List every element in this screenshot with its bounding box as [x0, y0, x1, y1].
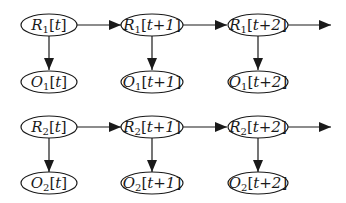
node-r2-t2: R2[t+2] — [228, 116, 288, 138]
node-o2-t: O2[t] — [21, 172, 77, 194]
node-r2-t: R2[t] — [21, 116, 77, 138]
svg-text:O2[t]: O2[t] — [31, 174, 67, 193]
node-r1-t1: R1[t+1] — [121, 14, 183, 36]
svg-text:R1[t+1]: R1[t+1] — [122, 16, 181, 35]
svg-text:R2[t+1]: R2[t+1] — [122, 118, 181, 137]
svg-text:R1[t]: R1[t] — [30, 16, 66, 35]
svg-text:O1[t]: O1[t] — [31, 73, 67, 92]
svg-text:R2[t+2]: R2[t+2] — [228, 118, 287, 137]
node-r1-t2: R1[t+2] — [228, 14, 288, 36]
node-o1-t2: O1[t+2] — [228, 71, 288, 93]
svg-text:O1[t+2]: O1[t+2] — [229, 73, 288, 92]
node-o1-t: O1[t] — [21, 71, 77, 93]
node-r1-t: R1[t] — [21, 14, 77, 36]
node-r2-t1: R2[t+1] — [121, 116, 183, 138]
svg-text:O2[t+1]: O2[t+1] — [123, 174, 182, 193]
svg-text:O1[t+1]: O1[t+1] — [123, 73, 182, 92]
node-o1-t1: O1[t+1] — [121, 71, 183, 93]
bayesian-network-diagram: R1[t] R1[t+1] R1[t+2] O1[t] O1[t+1] O1[t… — [0, 0, 346, 203]
node-o2-t1: O2[t+1] — [121, 172, 183, 194]
node-o2-t2: O2[t+2] — [228, 172, 288, 194]
svg-text:R2[t]: R2[t] — [30, 118, 66, 137]
svg-text:R1[t+2]: R1[t+2] — [228, 16, 287, 35]
svg-text:O2[t+2]: O2[t+2] — [229, 174, 288, 193]
